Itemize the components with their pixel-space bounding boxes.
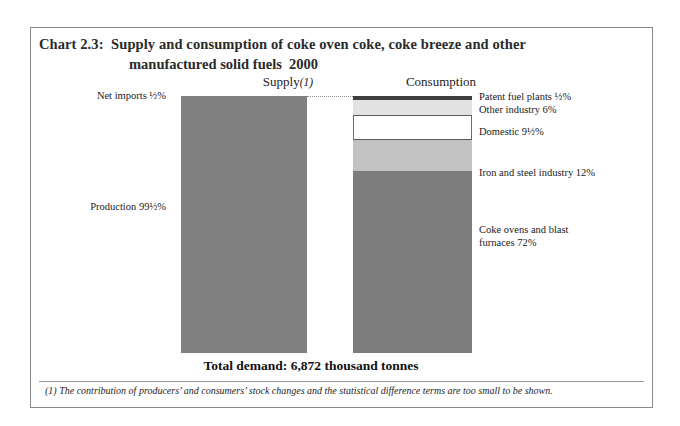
chart-frame: Chart 2.3: Supply and consumption of cok… [30, 27, 653, 408]
label-iron-and-steel-industry: Iron and steel industry 12% [479, 166, 595, 179]
total-demand-annotation: Total demand: 6,872 thousand tonnes [31, 358, 591, 374]
segment-iron-and-steel-industry [353, 140, 472, 171]
plot-area: Net imports ½% Production 99½% Patent fu… [31, 28, 652, 407]
label-patent-fuel-plants: Patent fuel plants ½% [479, 90, 571, 103]
label-other-industry: Other industry 6% [479, 103, 557, 116]
label-net-imports: Net imports ½% [0, 90, 166, 101]
footnote-divider [39, 381, 644, 382]
label-production: Production 99½% [0, 201, 166, 212]
label-coke-ovens-line-2: furnaces 72% [479, 236, 599, 249]
segment-production [181, 97, 307, 353]
consumption-stacked-bar [353, 96, 472, 353]
footnote-text: (1) The contribution of producers’ and c… [45, 385, 645, 396]
segment-coke-ovens-and-blast-furnaces [353, 171, 472, 353]
supply-consumption-connector-line [307, 96, 353, 97]
label-coke-ovens-and-blast-furnaces: Coke ovens and blast furnaces 72% [479, 223, 599, 249]
segment-other-industry [353, 100, 472, 115]
segment-domestic [353, 116, 472, 140]
label-domestic: Domestic 9½% [479, 125, 544, 138]
label-coke-ovens-line-1: Coke ovens and blast [479, 223, 599, 236]
supply-stacked-bar [181, 96, 307, 353]
